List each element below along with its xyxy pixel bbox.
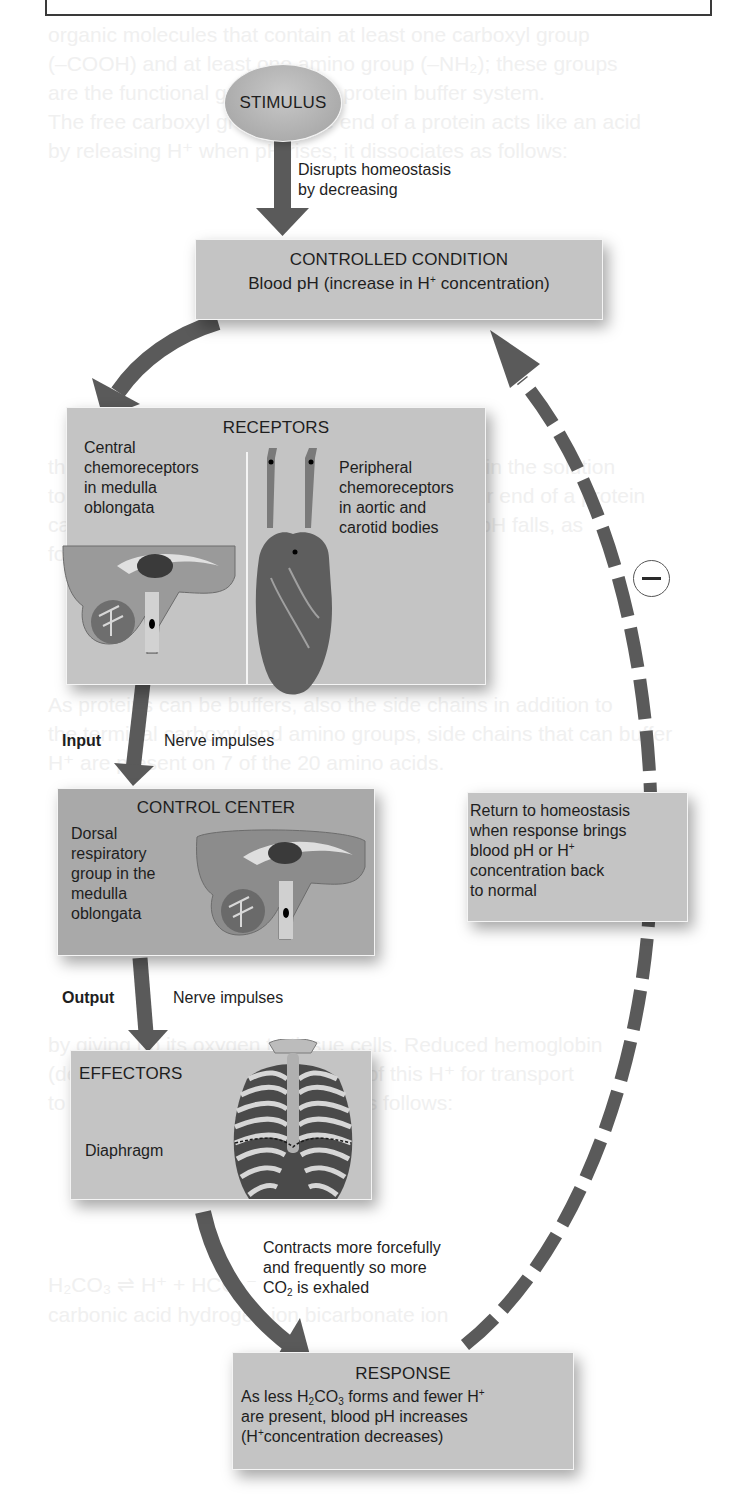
controlled-to-receptors-arrow bbox=[92, 322, 218, 418]
input-label: Input bbox=[62, 731, 101, 751]
control-center-title: CONTROL CENTER bbox=[58, 798, 374, 818]
output-label-text: Output bbox=[62, 989, 114, 1006]
return-to-homeostasis-box: Return to homeostasis when response brin… bbox=[467, 792, 688, 922]
controlled-condition-title: CONTROLLED CONDITION bbox=[196, 250, 602, 270]
stimulus-caption-line2: by decreasing bbox=[298, 180, 451, 200]
central-chemoreceptors-text: Central chemoreceptors in medulla oblong… bbox=[84, 438, 199, 518]
heart-illustration-icon bbox=[249, 448, 339, 720]
control-center-box: CONTROL CENTER Dorsal respiratory group … bbox=[57, 788, 375, 956]
effector-caption-line2: and frequently so more bbox=[263, 1258, 441, 1278]
effector-caption-line3: CO2 is exhaled bbox=[263, 1278, 441, 1298]
effectors-title: EFFECTORS bbox=[79, 1064, 183, 1084]
effectors-text: Diaphragm bbox=[85, 1141, 163, 1161]
effector-arrow-caption: Contracts more forcefully and frequently… bbox=[263, 1238, 441, 1298]
effectors-box: EFFECTORS Diaphragm bbox=[70, 1050, 372, 1200]
output-label: Output bbox=[62, 988, 114, 1008]
response-title: RESPONSE bbox=[233, 1364, 573, 1384]
controlled-condition-text: Blood pH (increase in H+ concentration) bbox=[196, 274, 602, 294]
brain-illustration-icon bbox=[59, 536, 239, 654]
brain-illustration-icon bbox=[193, 827, 368, 942]
receptors-title: RECEPTORS bbox=[67, 418, 485, 438]
receptors-box: RECEPTORS Central chemoreceptors in medu… bbox=[66, 407, 486, 685]
output-arrow bbox=[128, 958, 168, 1052]
response-text: As less H2CO3 forms and fewer H+ are pre… bbox=[241, 1387, 485, 1447]
input-caption: Nerve impulses bbox=[164, 731, 274, 751]
input-arrow bbox=[114, 683, 154, 786]
rib-cage-illustration-icon bbox=[229, 1039, 357, 1199]
stimulus-node: STIMULUS bbox=[224, 64, 342, 142]
control-center-text: Dorsal respiratory group in the medulla … bbox=[71, 824, 156, 924]
input-label-text: Input bbox=[62, 732, 101, 749]
effector-caption-line1: Contracts more forcefully bbox=[263, 1238, 441, 1258]
stimulus-arrow-caption: Disrupts homeostasis by decreasing bbox=[298, 160, 451, 200]
response-box: RESPONSE As less H2CO3 forms and fewer H… bbox=[232, 1352, 574, 1470]
receptors-divider bbox=[246, 452, 248, 684]
controlled-condition-box: CONTROLLED CONDITION Blood pH (increase … bbox=[195, 239, 603, 320]
negative-feedback-minus-icon bbox=[633, 560, 670, 597]
peripheral-chemoreceptors-text: Peripheral chemoreceptors in aortic and … bbox=[339, 458, 454, 538]
stimulus-label: STIMULUS bbox=[240, 93, 327, 113]
return-to-homeostasis-text: Return to homeostasis when response brin… bbox=[468, 801, 630, 901]
output-caption: Nerve impulses bbox=[173, 988, 283, 1008]
stimulus-caption-line1: Disrupts homeostasis bbox=[298, 160, 451, 180]
